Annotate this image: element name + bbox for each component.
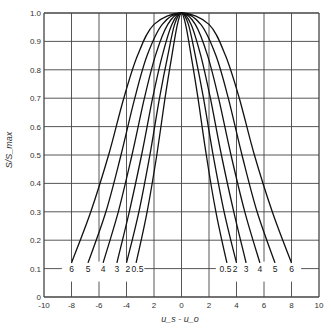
svg-text:0.9: 0.9 [30,37,42,46]
svg-text:0.5: 0.5 [30,151,42,160]
svg-text:0.2: 0.2 [30,236,42,245]
svg-text:10: 10 [315,301,324,310]
svg-text:0.4: 0.4 [30,179,42,188]
tick-labels: -10-8-6-42024681000.10.20.30.40.50.60.70… [30,9,324,310]
svg-text:2: 2 [233,264,238,274]
svg-text:3: 3 [115,264,120,274]
svg-text:3: 3 [244,264,249,274]
svg-text:0: 0 [179,301,184,310]
svg-text:0.1: 0.1 [30,265,42,274]
svg-text:4: 4 [234,301,239,310]
svg-text:1.0: 1.0 [30,9,42,18]
svg-text:0.5: 0.5 [220,264,232,274]
svg-text:6: 6 [69,264,74,274]
svg-text:2: 2 [207,301,212,310]
svg-text:4: 4 [258,264,263,274]
grid [44,13,319,297]
svg-text:5: 5 [86,264,91,274]
svg-text:0.6: 0.6 [30,123,42,132]
x-axis-label: u_s - u_o [161,314,199,324]
y-axis-label: S/S_max [4,131,14,168]
svg-text:-10: -10 [38,301,50,310]
svg-text:4: 4 [101,264,106,274]
svg-text:5: 5 [273,264,278,274]
svg-text:2: 2 [126,264,131,274]
svg-text:-4: -4 [123,301,131,310]
svg-text:-6: -6 [95,301,103,310]
svg-text:-8: -8 [68,301,76,310]
svg-text:0.3: 0.3 [30,208,42,217]
chart: -10-8-6-42024681000.10.20.30.40.50.60.70… [0,0,331,331]
svg-text:6: 6 [289,264,294,274]
svg-text:0.5: 0.5 [132,264,144,274]
svg-text:0.8: 0.8 [30,66,42,75]
svg-text:8: 8 [289,301,294,310]
svg-text:0.7: 0.7 [30,94,42,103]
svg-text:6: 6 [262,301,267,310]
svg-text:2: 2 [152,301,157,310]
svg-text:0: 0 [37,293,42,302]
